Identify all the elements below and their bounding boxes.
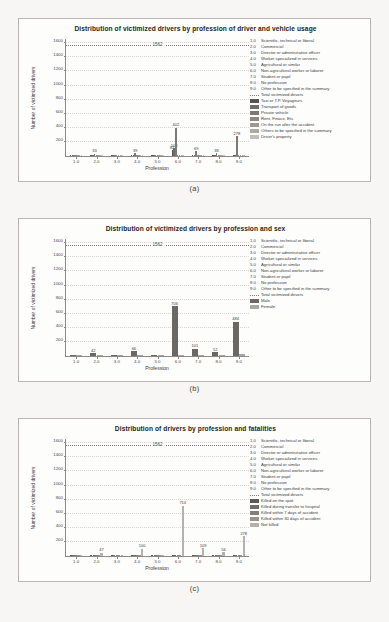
legend-series-entry: Not killed — [250, 523, 364, 527]
legend-code-entry: 5.0Agricultural or similar — [250, 63, 364, 67]
x-tick-label: 7.0 — [195, 159, 201, 164]
legend-code: 8.0 — [250, 481, 259, 485]
chart-legend: 1.0Scientific, technical or liberal2.0Co… — [250, 39, 364, 141]
x-tick-label: 1.0 — [73, 159, 79, 164]
bar — [243, 155, 245, 156]
bar — [158, 355, 164, 356]
x-tick-label: 7.0 — [195, 559, 201, 564]
legend-code: 2.0 — [250, 445, 259, 449]
gridline — [66, 499, 249, 500]
legend-code-entry: 2.0Commercial — [250, 445, 364, 449]
panel-caption: (a) — [0, 184, 389, 193]
gridline — [66, 113, 249, 114]
legend-code-entry: 9.0Other to be specified in the summary — [250, 287, 364, 291]
bar — [219, 355, 225, 356]
y-tick-mark — [64, 242, 66, 243]
legend-code: 3.0 — [250, 451, 259, 455]
x-axis-label: Profession — [65, 565, 249, 571]
y-tick-label: 1200 — [53, 266, 63, 271]
chart-panel: Distribution of victimized drivers by pr… — [18, 218, 371, 382]
bar — [70, 355, 76, 356]
legend-label: Others to be specified in the summary — [261, 129, 332, 133]
legend-dash-swatch — [250, 495, 259, 496]
legend-code-entry: 3.0Director or administrative officer — [250, 251, 364, 255]
bar — [117, 355, 123, 356]
legend-label: Total victimized drivers — [261, 493, 303, 497]
legend-code-entry: 8.0No profession — [250, 281, 364, 285]
gridline — [66, 485, 249, 486]
bar-value-label: 109 — [200, 543, 207, 548]
bar — [111, 355, 117, 356]
legend-code: 7.0 — [250, 75, 259, 79]
legend-label: Female — [261, 305, 275, 309]
legend-label: On the run after the accident — [261, 123, 314, 127]
gridline — [66, 56, 249, 57]
legend-label: Agricultural or similar — [261, 263, 300, 267]
bar — [198, 355, 204, 356]
bar-value-label: 706 — [171, 301, 178, 306]
y-tick-label: 800 — [56, 94, 63, 99]
legend-label: Transport of goods — [261, 105, 296, 109]
x-tick-label: 9.0 — [236, 159, 242, 164]
gridline — [66, 85, 249, 86]
legend-series-entry: Male — [250, 299, 364, 303]
legend-color-swatch — [250, 523, 259, 526]
panel-caption: (b) — [0, 384, 389, 393]
gridline — [66, 313, 249, 314]
bar: 278 — [236, 136, 238, 156]
legend-code-entry: 6.0Non-agricultural worker or laborer — [250, 269, 364, 273]
legend-color-swatch — [250, 299, 259, 302]
gridline — [66, 513, 249, 514]
y-tick-label: 1200 — [53, 466, 63, 471]
y-axis-label: Number of victimized drivers — [28, 239, 38, 357]
x-tick-label: 3.0 — [114, 559, 120, 564]
chart-panel: Distribution of victimized drivers by pr… — [18, 18, 371, 182]
bar-value-label: 39 — [133, 148, 137, 153]
figure-panel-a: Distribution of victimized drivers by pr… — [0, 18, 389, 202]
bar: 42 — [90, 353, 96, 356]
legend-code-entry: 4.0Worker specialized in services — [250, 257, 364, 261]
legend-code: 5.0 — [250, 463, 259, 467]
legend-code: 8.0 — [250, 81, 259, 85]
legend-color-swatch — [250, 135, 259, 138]
x-tick-label: 2.0 — [93, 159, 99, 164]
y-tick-label: 1000 — [53, 480, 63, 485]
bar-value-label: 56 — [221, 547, 225, 552]
legend-code-entry: 1.0Scientific, technical or liberal — [250, 239, 364, 243]
y-tick-label: 800 — [56, 294, 63, 299]
legend-label: Non-agricultural worker or laborer — [261, 69, 323, 73]
legend-code: 7.0 — [250, 475, 259, 479]
bar-value-label: 66 — [132, 346, 136, 351]
legend-code-entry: 7.0Student or pupil — [250, 75, 364, 79]
legend-code-entry: 2.0Commercial — [250, 45, 364, 49]
x-tick-label: 1.0 — [73, 559, 79, 564]
chart-legend: 1.0Scientific, technical or liberal2.0Co… — [250, 239, 364, 311]
x-tick-label: 2.0 — [93, 359, 99, 364]
legend-code-entry: 3.0Director or administrative officer — [250, 451, 364, 455]
legend-line-entry: Total victimized drivers — [250, 93, 364, 97]
gridline — [66, 341, 249, 342]
bar — [178, 355, 184, 356]
legend-color-swatch — [250, 129, 259, 132]
y-tick-mark — [64, 127, 66, 128]
legend-code: 1.0 — [250, 239, 259, 243]
y-tick-label: 600 — [56, 508, 63, 513]
legend-series-entry: Killed within 30 days of accident — [250, 517, 364, 521]
legend-color-swatch — [250, 99, 259, 102]
legend-label: Student or pupil — [261, 275, 290, 279]
bar — [142, 155, 144, 156]
legend-label: Worker specialized in services — [261, 257, 317, 261]
gridline — [66, 270, 249, 271]
legend-code: 3.0 — [250, 251, 259, 255]
y-tick-mark — [64, 513, 66, 514]
bar-value-label: 33 — [92, 148, 96, 153]
bar: 714 — [182, 506, 184, 556]
y-tick-label: 600 — [56, 308, 63, 313]
y-tick-label: 200 — [56, 336, 63, 341]
y-tick-mark — [64, 327, 66, 328]
y-tick-mark — [64, 56, 66, 57]
plot-area: 200400600800100012001400160015621.02.033… — [65, 39, 249, 157]
legend-label: Private vehicle — [261, 111, 288, 115]
legend-code-entry: 2.0Commercial — [250, 245, 364, 249]
legend-code: 1.0 — [250, 439, 259, 443]
